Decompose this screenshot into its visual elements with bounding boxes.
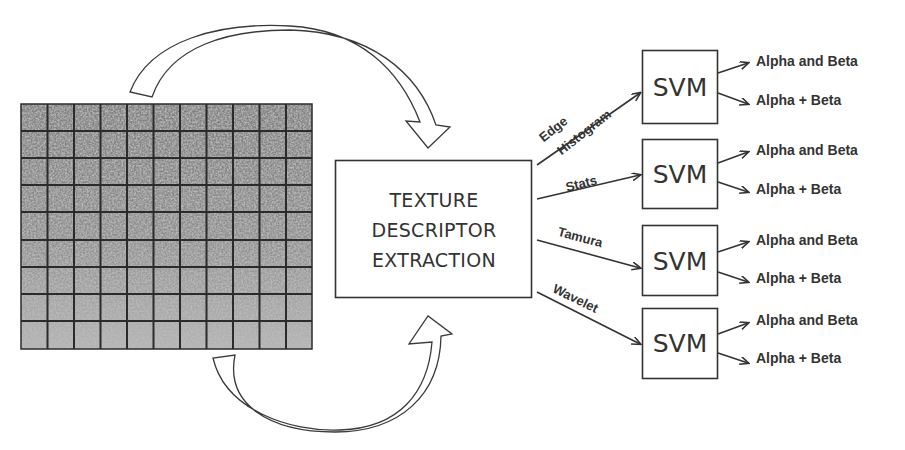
texture-noise xyxy=(21,104,312,349)
output-label: Alpha and Beta xyxy=(756,142,858,158)
output-label: Alpha + Beta xyxy=(756,92,841,108)
output-label: Alpha + Beta xyxy=(756,181,841,197)
svm-label-3: SVM xyxy=(642,225,718,297)
output-arrow-icon xyxy=(718,63,748,73)
output-label: Alpha and Beta xyxy=(756,312,858,328)
output-arrow-icon xyxy=(718,152,748,163)
output-label: Alpha + Beta xyxy=(756,270,841,286)
texture-image xyxy=(21,104,312,349)
process-line-2: DESCRIPTOR xyxy=(372,215,497,245)
svm-label-1: SVM xyxy=(642,51,718,123)
output-label: Alpha and Beta xyxy=(756,232,858,248)
process-line-3: EXTRACTION xyxy=(372,245,496,275)
output-arrow-icon xyxy=(718,272,748,282)
svm-label-2: SVM xyxy=(642,138,718,210)
output-label: Alpha + Beta xyxy=(756,350,841,366)
output-arrow-icon xyxy=(718,323,748,334)
svm-label-4: SVM xyxy=(642,307,718,379)
output-arrow-icon xyxy=(718,182,748,192)
output-label: Alpha and Beta xyxy=(756,53,858,69)
output-arrow-icon xyxy=(718,93,748,104)
texture-descriptor-label: TEXTURE DESCRIPTOR EXTRACTION xyxy=(336,161,532,298)
output-arrow-icon xyxy=(718,242,748,252)
output-arrow-icon xyxy=(718,353,748,363)
process-line-1: TEXTURE xyxy=(389,185,478,215)
